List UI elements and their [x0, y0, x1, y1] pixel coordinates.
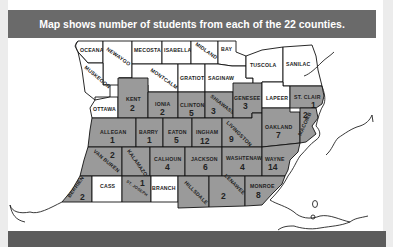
county-bay[interactable]: BAY — [218, 41, 246, 66]
student-count: 6 — [203, 162, 208, 172]
county-midland[interactable]: MIDLAND — [191, 41, 219, 64]
county-label: OTTAWA — [93, 106, 116, 112]
student-count: 2 — [221, 191, 226, 201]
student-count: 9 — [229, 134, 234, 144]
student-count: 14 — [268, 162, 278, 172]
student-count: 8 — [256, 190, 261, 200]
county-calhoun[interactable]: CALHOUN 4 — [150, 147, 185, 176]
student-count: 2 — [80, 192, 85, 202]
county-jackson[interactable]: JACKSON 6 — [185, 147, 222, 176]
student-count: 2 — [110, 150, 115, 160]
student-count: 2 — [130, 103, 135, 113]
county-allegan[interactable]: ALLEGAN 1 — [88, 118, 136, 147]
county-label: CASS — [100, 183, 116, 189]
county-lenawee[interactable]: LENAWEE 2 — [209, 172, 247, 207]
county-livingston[interactable]: LIVINGSTON 9 — [222, 113, 262, 148]
county-label: INGHAM — [196, 129, 218, 135]
county-kent[interactable]: KENT 2 — [118, 78, 148, 118]
county-wayne[interactable]: WAYNE 14 — [262, 143, 300, 176]
county-macomb[interactable]: 2 MACOMB — [296, 108, 318, 143]
county-label: LAPEER — [266, 95, 288, 101]
county-eaton[interactable]: EATON 5 — [163, 118, 192, 147]
county-label: BRANCH — [152, 185, 176, 191]
county-st-clair[interactable]: ST. CLAIR 1 — [290, 86, 324, 110]
county-sanilac[interactable]: SANILAC — [283, 45, 322, 86]
student-count: 5 — [189, 108, 194, 118]
student-count: 5 — [174, 135, 179, 145]
county-label: BAY — [221, 46, 232, 52]
county-gratiot[interactable]: GRATIOT — [178, 64, 205, 92]
county-label: SAGINAW — [208, 75, 234, 81]
county-label: KENT — [126, 96, 142, 102]
county-label: MONROE — [250, 183, 275, 189]
student-count: 12 — [200, 136, 210, 146]
student-count: 7 — [276, 130, 281, 140]
student-count: 4 — [165, 162, 170, 172]
county-barry[interactable]: BARRY 1 — [136, 118, 163, 147]
county-ottawa[interactable]: OTTAWA — [90, 97, 118, 118]
county-label: MECOSTA — [134, 47, 161, 53]
student-count: 1 — [147, 135, 152, 145]
county-label: OCEANA — [80, 47, 104, 53]
county-mecosta[interactable]: MECOSTA — [132, 41, 162, 64]
county-lapeer[interactable]: LAPEER — [262, 82, 290, 108]
county-cass[interactable]: CASS — [92, 176, 122, 202]
footer-bar — [8, 231, 386, 247]
county-label: SANILAC — [286, 61, 311, 67]
county-monroe[interactable]: MONROE 8 — [245, 176, 285, 206]
county-clinton[interactable]: CLINTON 5 — [178, 92, 205, 118]
county-label: TUSCOLA — [250, 62, 277, 68]
county-berrien[interactable]: BERRIEN 2 — [62, 175, 92, 202]
county-label: ISABELLA — [164, 47, 192, 53]
student-count: 2 — [160, 107, 165, 117]
student-count: 3 — [211, 106, 216, 116]
county-ingham[interactable]: INGHAM 12 — [192, 118, 222, 147]
county-van-buren[interactable]: 2 VAN BUREN — [80, 147, 122, 176]
county-map: OCEANA NEWAYGO MECOSTA ISABELLA MIDLAND … — [0, 0, 393, 247]
student-count: 3 — [243, 101, 248, 111]
student-count: 1 — [110, 135, 115, 145]
county-st-joseph[interactable]: 1 ST. JOSEPH — [122, 176, 151, 202]
county-isabella[interactable]: ISABELLA — [162, 41, 192, 64]
county-label: ST. CLAIR — [294, 94, 321, 100]
county-hillsdale[interactable]: HILLSDALE — [178, 176, 210, 208]
county-oakland[interactable]: OAKLAND 7 — [262, 108, 300, 147]
county-ionia[interactable]: IONIA 2 — [148, 92, 178, 118]
county-branch[interactable]: BRANCH — [151, 176, 178, 202]
county-label: GRATIOT — [180, 75, 205, 81]
student-count: 4 — [240, 162, 245, 172]
county-label: WASHTENAW — [226, 155, 262, 161]
